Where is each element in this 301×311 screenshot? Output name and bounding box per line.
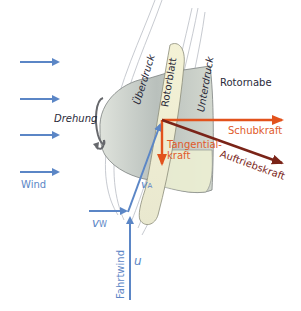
label-tangentialkraft-2: kraft: [167, 151, 190, 161]
label-va-sub: A: [148, 182, 153, 190]
label-vw-sub: W: [99, 220, 107, 229]
rotor-force-diagram: [0, 0, 301, 311]
label-tangentialkraft-1: Tangential-: [167, 140, 222, 150]
label-fahrtwind: Fahrtwind: [116, 250, 126, 299]
wind-arrows: [20, 62, 58, 172]
label-vw: vW: [92, 217, 107, 229]
label-schubkraft: Schubkraft: [228, 126, 282, 136]
label-va: vA: [141, 179, 152, 190]
label-u: u: [134, 255, 142, 267]
label-rotornabe: Rotornabe: [220, 78, 272, 88]
label-wind: Wind: [21, 180, 46, 190]
label-drehung: Drehung: [54, 114, 97, 124]
